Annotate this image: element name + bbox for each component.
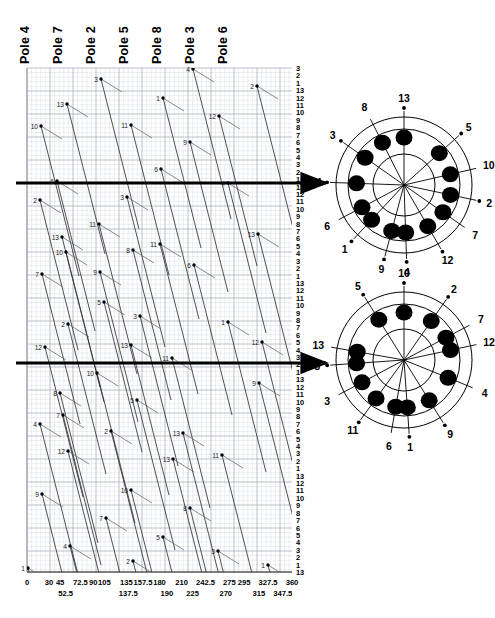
star-label-8: 8 (314, 360, 320, 372)
star-label-10: 10 (398, 267, 410, 279)
star-label-13: 13 (398, 92, 410, 104)
star-label-6: 6 (324, 220, 330, 232)
star-label-3: 3 (324, 395, 330, 407)
star-label-4: 4 (482, 387, 488, 399)
star-label-2: 2 (451, 283, 457, 295)
star-label-7: 7 (478, 313, 484, 325)
star-label-12: 12 (483, 336, 495, 348)
star-label-9: 9 (447, 428, 453, 440)
star-label-12: 12 (442, 254, 454, 266)
star-label-5: 5 (466, 121, 472, 133)
upper-star-diagram (325, 106, 481, 264)
star-label-10: 10 (483, 159, 495, 171)
star-label-5: 5 (355, 280, 361, 292)
star-label-2: 2 (486, 197, 492, 209)
star-label-13: 13 (312, 339, 324, 351)
star-label-1: 1 (342, 243, 348, 255)
star-label-7: 7 (472, 229, 478, 241)
star-label-11: 11 (347, 424, 358, 436)
star-label-6: 6 (386, 440, 392, 452)
star-label-1: 1 (407, 441, 413, 453)
lower-star-diagram (325, 281, 476, 439)
star-label-3: 3 (330, 129, 336, 141)
star-label-8: 8 (362, 101, 368, 113)
star-label-11: 11 (311, 176, 322, 188)
star-label-9: 9 (379, 263, 385, 275)
